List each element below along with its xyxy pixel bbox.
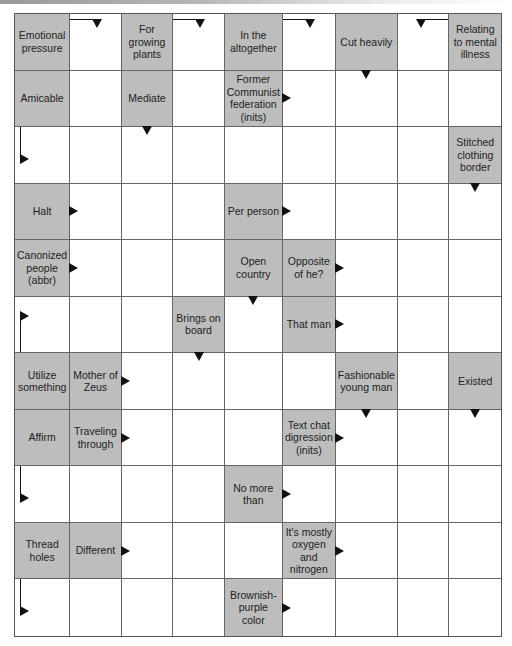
answer-cell[interactable] (398, 297, 450, 354)
answer-cell[interactable] (173, 127, 225, 184)
answer-cell[interactable] (173, 466, 225, 523)
clue-cell: Amicable (15, 71, 70, 128)
answer-cell[interactable] (398, 184, 450, 241)
answer-cell[interactable] (336, 240, 398, 297)
answer-cell[interactable] (398, 14, 450, 71)
answer-cell[interactable] (336, 71, 398, 128)
answer-cell[interactable] (70, 466, 122, 523)
window-top-edge (0, 0, 512, 4)
bent-arrow-icon (421, 19, 448, 20)
arrow-right-icon (282, 603, 291, 613)
answer-cell[interactable] (336, 579, 398, 636)
clue-text: Thread holes (17, 538, 67, 563)
clue-cell: That man (283, 297, 336, 354)
answer-cell[interactable] (336, 297, 398, 354)
answer-cell[interactable] (173, 184, 225, 241)
answer-cell[interactable] (225, 297, 283, 354)
arrow-right-icon (335, 263, 344, 273)
bent-arrow-icon (173, 19, 200, 20)
answer-cell[interactable] (122, 466, 174, 523)
answer-cell[interactable] (70, 127, 122, 184)
bent-arrow-icon (20, 316, 21, 352)
clue-cell: Canonized people (abbr) (15, 240, 70, 297)
answer-cell[interactable] (336, 523, 398, 580)
clue-text: Mediate (128, 92, 165, 105)
answer-cell[interactable] (398, 240, 450, 297)
clue-cell: Traveling through (70, 410, 122, 467)
answer-cell[interactable] (70, 14, 122, 71)
answer-cell[interactable] (336, 466, 398, 523)
answer-cell[interactable] (449, 184, 501, 241)
answer-cell[interactable] (122, 127, 174, 184)
clue-text: Text chat digression (inits) (285, 419, 333, 457)
answer-cell[interactable] (398, 410, 450, 467)
answer-cell[interactable] (336, 184, 398, 241)
clue-cell: Text chat digression (inits) (283, 410, 336, 467)
answer-cell[interactable] (122, 297, 174, 354)
answer-cell[interactable] (173, 353, 225, 410)
answer-cell[interactable] (70, 297, 122, 354)
answer-cell[interactable] (449, 579, 501, 636)
arrow-right-icon (335, 319, 344, 329)
bent-arrow-icon (283, 19, 310, 20)
clue-cell: Halt (15, 184, 70, 241)
clue-cell: Former Communist federation (inits) (225, 71, 283, 128)
clue-cell: Thread holes (15, 523, 70, 580)
answer-cell[interactable] (225, 410, 283, 467)
clue-cell: Opposite of he? (283, 240, 336, 297)
answer-cell[interactable] (122, 184, 174, 241)
answer-cell[interactable] (173, 240, 225, 297)
answer-cell[interactable] (336, 410, 398, 467)
clue-text: Traveling through (72, 425, 119, 450)
answer-cell[interactable] (283, 14, 336, 71)
answer-cell[interactable] (283, 127, 336, 184)
answer-cell[interactable] (449, 71, 501, 128)
clue-text: Per person (228, 205, 279, 218)
answer-cell[interactable] (225, 353, 283, 410)
answer-cell[interactable] (70, 71, 122, 128)
answer-cell[interactable] (70, 579, 122, 636)
arrow-right-icon (69, 206, 78, 216)
answer-cell[interactable] (225, 523, 283, 580)
clue-text: That man (287, 318, 331, 331)
answer-cell[interactable] (398, 466, 450, 523)
answer-cell[interactable] (449, 523, 501, 580)
answer-cell[interactable] (122, 240, 174, 297)
arrow-right-icon (282, 206, 291, 216)
clue-cell: Mediate (122, 71, 174, 128)
arrow-down-icon (361, 409, 371, 418)
answer-cell[interactable] (449, 410, 501, 467)
answer-cell[interactable] (336, 127, 398, 184)
answer-cell[interactable] (398, 71, 450, 128)
answer-cell[interactable] (15, 297, 70, 354)
answer-cell[interactable] (449, 466, 501, 523)
answer-cell[interactable] (449, 297, 501, 354)
answer-cell[interactable] (398, 353, 450, 410)
answer-cell[interactable] (225, 127, 283, 184)
answer-cell[interactable] (173, 523, 225, 580)
answer-cell[interactable] (398, 127, 450, 184)
answer-cell[interactable] (173, 579, 225, 636)
clue-cell: Different (70, 523, 122, 580)
answer-cell[interactable] (122, 579, 174, 636)
arrow-right-icon (121, 546, 130, 556)
answer-cell[interactable] (398, 523, 450, 580)
arrow-down-icon (470, 409, 480, 418)
answer-cell[interactable] (15, 466, 70, 523)
answer-cell[interactable] (15, 127, 70, 184)
answer-cell[interactable] (283, 353, 336, 410)
clue-text: It's mostly oxygen and nitrogen (285, 526, 333, 576)
clue-text: Fashionable young man (338, 369, 395, 394)
clue-cell: It's mostly oxygen and nitrogen (283, 523, 336, 580)
clue-text: Existed (458, 375, 492, 388)
answer-cell[interactable] (173, 71, 225, 128)
answer-cell[interactable] (173, 14, 225, 71)
answer-cell[interactable] (398, 579, 450, 636)
clue-cell: For growing plants (122, 14, 174, 71)
clue-text: Amicable (21, 92, 64, 105)
answer-cell[interactable] (15, 579, 70, 636)
answer-cell[interactable] (449, 240, 501, 297)
answer-cell[interactable] (173, 410, 225, 467)
clue-text: In the altogether (227, 29, 280, 54)
bent-arrow-icon (20, 127, 21, 159)
